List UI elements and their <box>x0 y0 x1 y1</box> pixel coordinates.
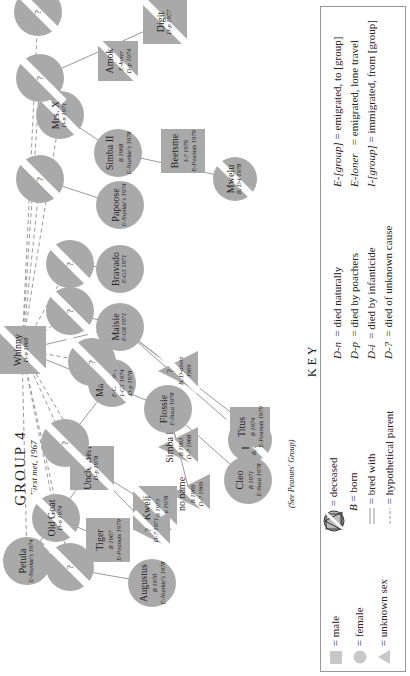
node-name: Simba II <box>104 136 115 171</box>
node-name: Simba I <box>164 431 175 462</box>
node-detail: B 1974 <box>249 417 256 436</box>
node-name: Augustus <box>138 564 149 602</box>
node-detail: D-? 1971 <box>152 518 159 544</box>
node-detail: E-G5 1971 <box>120 255 127 285</box>
node-name: ? <box>60 441 70 445</box>
key-hypothetical-label: hypothetical parent <box>383 411 395 496</box>
group4-genealogy-diagram: GROUP 4 First met, 1967 WhinnyD-n 1968Di… <box>0 0 410 676</box>
node-amok: AmokE-lonerD-p 1974 <box>98 41 138 81</box>
node-detail: B, D-i 1978 <box>235 163 242 194</box>
node-q6: ? <box>68 338 116 386</box>
node-detail: B 1963 <box>177 437 184 456</box>
node-detail: E-Peanuts 1979 <box>190 129 197 172</box>
key-bred-label: bred with <box>365 453 377 495</box>
key-death-n: D-n = died naturally <box>331 267 343 359</box>
node-name: Tiger <box>94 529 105 551</box>
node-q8: ? <box>46 543 94 591</box>
node-digit: DigitD-p 1977 <box>143 0 187 44</box>
node-unk-abort: ?B, D-abort1969 <box>158 351 198 391</box>
node-detail: D-n 1974 <box>56 505 63 531</box>
node-name: ? <box>65 565 75 569</box>
node-name: ? <box>165 369 175 373</box>
node-name: Titus <box>236 417 247 437</box>
node-detail: D-n 1971 <box>60 103 67 129</box>
node-whinny: WhinnyD-n 1968 <box>0 326 46 374</box>
deceased-symbol-icon <box>323 509 345 533</box>
node-name: ? <box>87 360 97 364</box>
node-name: Cleo <box>234 471 245 490</box>
node-q2: ? <box>16 54 64 102</box>
node-beetsme: BeetsmeI-? 1976E-Peanuts 1979 <box>161 129 205 173</box>
key-title: KEY <box>305 343 320 377</box>
node-q4: ? <box>46 240 94 288</box>
node-detail: E-loner <box>117 51 124 72</box>
key-bred-with: = bred with <box>365 453 377 525</box>
node-detail: D-n 1968 <box>22 337 29 363</box>
node-name: ? <box>35 177 45 181</box>
node-flossie: FlossieE-Susa 1978 <box>144 385 192 433</box>
node-detail: E-Nunkie's 1974 <box>120 183 127 228</box>
dashed-line-icon <box>385 507 395 525</box>
double-line-icon <box>367 507 377 525</box>
node-q3: ? <box>16 155 64 203</box>
key-emigrated-group: E-[group] = emigrated, to [group] <box>331 37 343 187</box>
key-death-i: D-i = died by infanticide <box>365 247 377 359</box>
node-detail: E-G8 1971 <box>120 313 127 343</box>
node-detail: D-? 1969 <box>197 481 204 507</box>
key-death-unknown: D-? = died of unknown cause <box>382 226 394 359</box>
node-detail: B 1970 <box>151 573 158 592</box>
node-cleo: CleoB 1971E-Susa 1978 <box>224 456 272 504</box>
square-symbol-icon <box>329 649 343 665</box>
node-detail: D-? 1968 <box>185 434 192 460</box>
node-detail: 1969 <box>185 364 192 378</box>
node-detail: D-p 1977 <box>165 9 172 35</box>
node-name: Amok <box>104 49 115 74</box>
node-tiger: TigerB 1967E-Peanuts 1979 <box>86 518 130 562</box>
node-q7: ? <box>41 419 89 467</box>
key-unknown-label: unknown sex <box>377 579 389 637</box>
key-deceased-label: deceased <box>327 458 339 498</box>
key-unknown-sex: = unknown sex <box>377 579 391 665</box>
node-name: Beetsme <box>169 133 180 168</box>
key-hypothetical: = hypothetical parent <box>383 411 395 525</box>
key-born-label: born <box>347 472 359 492</box>
node-detail: E-Susa 1978 <box>255 463 262 498</box>
node-papoose: PapooseE-Nunkie's 1974 <box>96 181 144 229</box>
circle-symbol-icon <box>353 649 367 665</box>
node-detail: E-Susa 1978 <box>168 392 175 427</box>
key-legend: KEY = male = female = unknown sex = <box>320 6 406 672</box>
node-old-goat: Old GoatD-n 1974 <box>32 494 80 542</box>
key-male: = male <box>329 616 343 665</box>
key-female: = female <box>353 607 367 665</box>
node-detail: B 1968 <box>117 143 124 162</box>
node-unk-1971: ?D-? 1971 <box>134 512 170 548</box>
node-petula: PetulaE-Nunkie's 1974 <box>3 537 51 585</box>
node-name: ? <box>65 262 75 266</box>
node-name: ? <box>65 309 75 313</box>
node-detail: B 1971 <box>247 471 254 490</box>
triangle-symbol-icon <box>377 649 391 665</box>
node-name: ? <box>33 10 43 14</box>
node-q1: ? <box>14 0 62 36</box>
node-detail: E-Peanuts 1979 <box>115 518 122 561</box>
key-female-label: female <box>353 607 365 637</box>
node-q5: ? <box>46 287 94 335</box>
node-detail: D-p 1978 <box>92 455 99 481</box>
node-detail: B 1967 <box>107 530 114 549</box>
node-titus: TitusB 1974E-Peanuts 1979 <box>230 405 270 448</box>
key-death-p: D-p = died by poachers <box>348 253 360 359</box>
node-detail: E-Nunkie's 1978 <box>159 561 166 606</box>
node-detail: B 1969 <box>189 484 196 503</box>
node-mwelu: MweluB, D-i 1978 <box>213 157 257 201</box>
node-name: ? <box>35 76 45 80</box>
node-detail: E-Peanuts 1979 <box>257 405 264 448</box>
node-detail: E-Nunkie's 1978 <box>125 131 132 176</box>
node-simba2: Simba IIB 1968E-Nunkie's 1978 <box>94 129 142 177</box>
node-detail: D-p 1978 <box>126 370 133 396</box>
see-peanuts-note: (See Peanuts' Group) <box>287 439 296 508</box>
key-born: B = born <box>347 472 359 511</box>
key-emigrated-loner: E-loner = emigrated, lone travel <box>348 40 360 187</box>
key-deceased: = deceased <box>323 458 345 533</box>
node-detail: B 1973 <box>154 498 161 517</box>
node-augustus: AugustusB 1970E-Nunkie's 1978 <box>128 559 176 607</box>
